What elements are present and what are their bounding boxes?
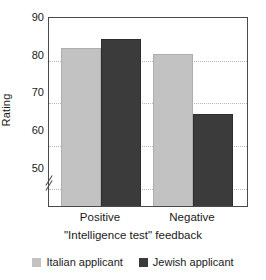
chart-legend: Italian applicant Jewish applicant xyxy=(0,256,266,268)
plot-area xyxy=(48,17,248,207)
legend-swatch-icon-italian xyxy=(32,258,41,267)
y-tick-70: 70 xyxy=(24,87,44,98)
x-category-positive: Positive xyxy=(55,211,145,223)
y-tick-60: 60 xyxy=(24,125,44,136)
x-axis-category-labels: Positive Negative xyxy=(48,211,248,227)
x-category-negative: Negative xyxy=(147,211,237,223)
y-tick-80: 80 xyxy=(24,50,44,61)
bar-positive-jewish xyxy=(101,39,141,206)
y-axis-label: Rating xyxy=(0,80,12,140)
bar-chart-figure: Rating 90 80 70 60 50 Positive Negative … xyxy=(0,0,266,280)
legend-entry-jewish: Jewish applicant xyxy=(139,256,234,268)
axis-break-icon xyxy=(42,174,56,192)
y-tick-90: 90 xyxy=(24,12,44,23)
y-tick-50: 50 xyxy=(24,163,44,174)
legend-label-italian: Italian applicant xyxy=(46,256,122,268)
legend-swatch-icon-jewish xyxy=(139,258,148,267)
x-axis-label: "Intelligence test" feedback xyxy=(0,229,266,241)
bar-positive-italian xyxy=(61,48,101,206)
legend-label-jewish: Jewish applicant xyxy=(153,256,234,268)
bar-negative-jewish xyxy=(193,114,233,206)
legend-entry-italian: Italian applicant xyxy=(32,256,122,268)
bar-negative-italian xyxy=(153,54,193,206)
